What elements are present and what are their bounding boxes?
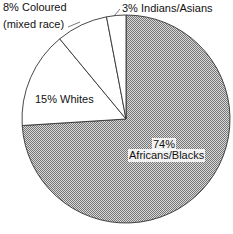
pie-chart (0, 0, 233, 234)
label-whites: 15% Whites (35, 93, 94, 106)
label-africans-name: Africans/Blacks (128, 149, 205, 162)
label-coloured-line1: 8% Coloured (3, 1, 67, 14)
pie-slices (22, 15, 230, 223)
label-coloured-line2: (mixed race) (3, 18, 64, 31)
label-indians: 3% Indians/Asians (122, 2, 213, 15)
